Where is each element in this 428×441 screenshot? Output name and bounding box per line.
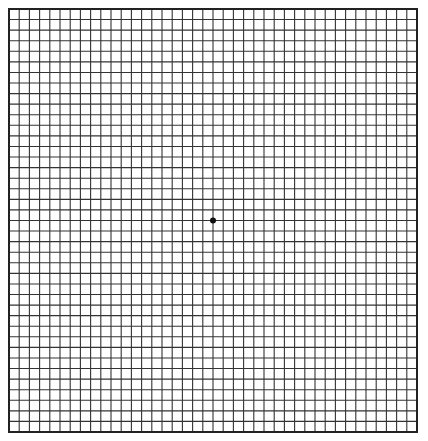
center-fixation-dot bbox=[210, 218, 216, 224]
amsler-grid bbox=[9, 9, 417, 432]
grid-lines bbox=[9, 9, 417, 432]
